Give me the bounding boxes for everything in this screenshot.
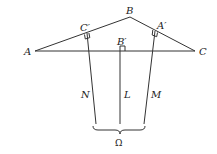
label-n: N: [80, 89, 91, 100]
label-c: C: [199, 46, 207, 57]
label-omega: Ω: [115, 138, 122, 148]
label-m: M: [150, 89, 162, 100]
label-c-prime: C′: [80, 22, 91, 33]
diagram-canvas: A B C C′ B′ A′ N L M Ω: [0, 0, 217, 154]
line-n: [87, 33, 96, 124]
label-a-prime: A′: [156, 20, 167, 31]
brace: [93, 126, 145, 134]
label-a: A: [23, 46, 31, 57]
line-m: [144, 31, 155, 124]
label-l: L: [123, 89, 131, 100]
label-b-prime: B′: [116, 36, 127, 47]
label-b: B: [125, 5, 133, 16]
